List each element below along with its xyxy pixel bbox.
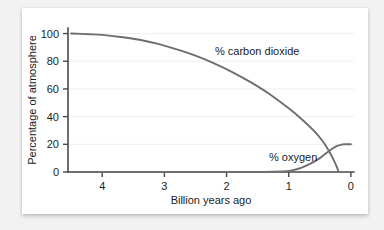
y-tick-label: 0 (53, 166, 59, 178)
figure-card: 020406080100 43210 % carbon dioxide % ox… (22, 8, 368, 214)
y-tick-label: 60 (47, 83, 59, 95)
atmosphere-composition-chart: 020406080100 43210 % carbon dioxide % ox… (22, 8, 368, 214)
y-tick-label: 80 (47, 55, 59, 67)
x-tick-label: 3 (161, 180, 167, 192)
x-tick-label: 4 (99, 180, 105, 192)
x-axis-title: Billion years ago (171, 194, 252, 206)
x-tick-label: 2 (223, 180, 229, 192)
x-tick-label: 1 (286, 180, 292, 192)
y-tick-label: 40 (47, 111, 59, 123)
y-axis-title: Percentage of atmosphere (26, 35, 38, 165)
x-tick-group: 43210 (99, 172, 354, 192)
y-tick-label: 20 (47, 138, 59, 150)
y-tick-label: 100 (41, 28, 59, 40)
chart-canvas: 020406080100 43210 % carbon dioxide % ox… (22, 8, 368, 214)
x-tick-label: 0 (348, 180, 354, 192)
co2-series-label: % carbon dioxide (215, 45, 299, 57)
oxygen-series-label: % oxygen (269, 151, 317, 163)
y-tick-group: 020406080100 (41, 28, 68, 178)
